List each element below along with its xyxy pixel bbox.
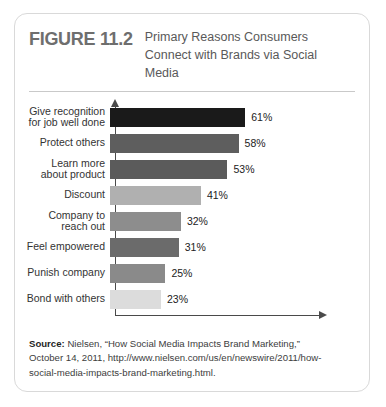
bar-category-label-line: Bond with others (15, 293, 105, 305)
bar (110, 212, 181, 231)
source-line-3: social-media-impacts-brand-marketing.htm… (29, 366, 355, 381)
figure-header: FIGURE 11.2 Primary Reasons Consumers Co… (15, 14, 369, 82)
bar-category-label-line: Punish company (15, 267, 105, 279)
bar-category-label-line: reach out (15, 221, 105, 233)
bar-track: 41% (110, 184, 369, 206)
x-axis-line (115, 315, 320, 316)
bar-row: Give recognitionfor job well done61% (15, 106, 369, 128)
bar (110, 108, 245, 127)
bar (110, 264, 165, 283)
source-text-1: Nielsen, “How Social Media Impacts Brand… (65, 338, 300, 349)
bar-row: Discount41% (15, 184, 369, 206)
bar-value-label: 25% (171, 267, 192, 279)
bar-category-label-line: for job well done (15, 117, 105, 129)
bar (110, 134, 239, 153)
bar-category-label: Protect others (15, 137, 110, 149)
figure-title-line-3: Media (145, 64, 353, 82)
bar-category-label: Company toreach out (15, 210, 110, 233)
bar-track: 53% (110, 158, 369, 180)
bar-row: Company toreach out32% (15, 210, 369, 232)
header-divider (29, 91, 355, 92)
bar-track: 32% (110, 210, 369, 232)
bar (110, 238, 179, 257)
bar-category-label: Feel empowered (15, 241, 110, 253)
bar-category-label-line: Discount (15, 189, 105, 201)
bar-track: 31% (110, 236, 369, 258)
bar-row: Bond with others23% (15, 288, 369, 310)
bar-category-label: Punish company (15, 267, 110, 279)
bar-category-label: Discount (15, 189, 110, 201)
bar (110, 290, 161, 309)
bar-value-label: 41% (207, 189, 228, 201)
bar-value-label: 61% (251, 111, 272, 123)
x-axis-arrow-icon (319, 311, 327, 319)
bar-value-label: 53% (233, 163, 254, 175)
source-label: Source: (29, 338, 65, 349)
bar-track: 23% (110, 288, 369, 310)
source-note: Source: Nielsen, “How Social Media Impac… (29, 337, 355, 381)
bar-value-label: 32% (187, 215, 208, 227)
bar (110, 186, 201, 205)
bar-value-label: 31% (185, 241, 206, 253)
bar-value-label: 23% (167, 293, 188, 305)
figure-card: FIGURE 11.2 Primary Reasons Consumers Co… (14, 13, 370, 392)
source-line-1: Source: Nielsen, “How Social Media Impac… (29, 337, 355, 352)
bar-row: Feel empowered31% (15, 236, 369, 258)
bar-category-label: Give recognitionfor job well done (15, 106, 110, 129)
source-line-2: October 14, 2011, http://www.nielsen.com… (29, 351, 355, 366)
figure-number: FIGURE 11.2 (29, 28, 133, 49)
bar-category-label-line: Protect others (15, 137, 105, 149)
bar-row: Protect others58% (15, 132, 369, 154)
bar-track: 58% (110, 132, 369, 154)
bar-track: 61% (110, 106, 369, 128)
figure-title: Primary Reasons Consumers Connect with B… (145, 28, 353, 82)
bar-category-label-line: about product (15, 169, 105, 181)
bar-track: 25% (110, 262, 369, 284)
bar-category-label: Learn moreabout product (15, 158, 110, 181)
bar-chart: Give recognitionfor job well done61%Prot… (15, 98, 369, 320)
figure-title-line-1: Primary Reasons Consumers (145, 28, 353, 46)
figure-title-line-2: Connect with Brands via Social (145, 46, 353, 64)
bar-category-label: Bond with others (15, 293, 110, 305)
bar-value-label: 58% (245, 137, 266, 149)
bar-row: Learn moreabout product53% (15, 158, 369, 180)
bar-category-label-line: Feel empowered (15, 241, 105, 253)
bar-row: Punish company25% (15, 262, 369, 284)
bar (110, 160, 227, 179)
